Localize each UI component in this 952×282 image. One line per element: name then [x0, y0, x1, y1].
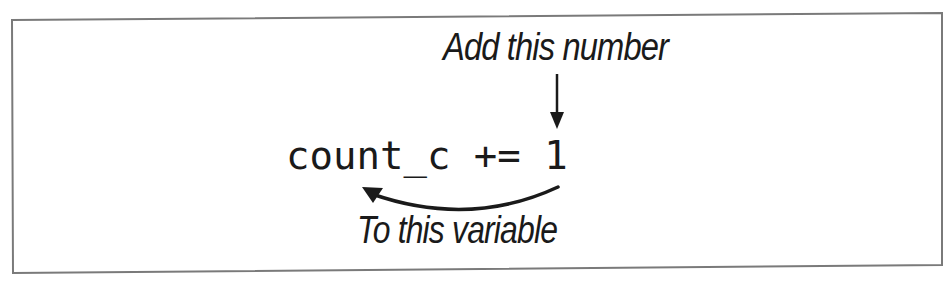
curved-arrow-icon [362, 187, 558, 209]
annotation-add-this-number: Add this number [443, 28, 668, 66]
code-statement: count_c += 1 [286, 136, 568, 175]
down-arrow-icon [550, 74, 564, 129]
annotation-to-this-variable: To this variable [357, 211, 557, 249]
